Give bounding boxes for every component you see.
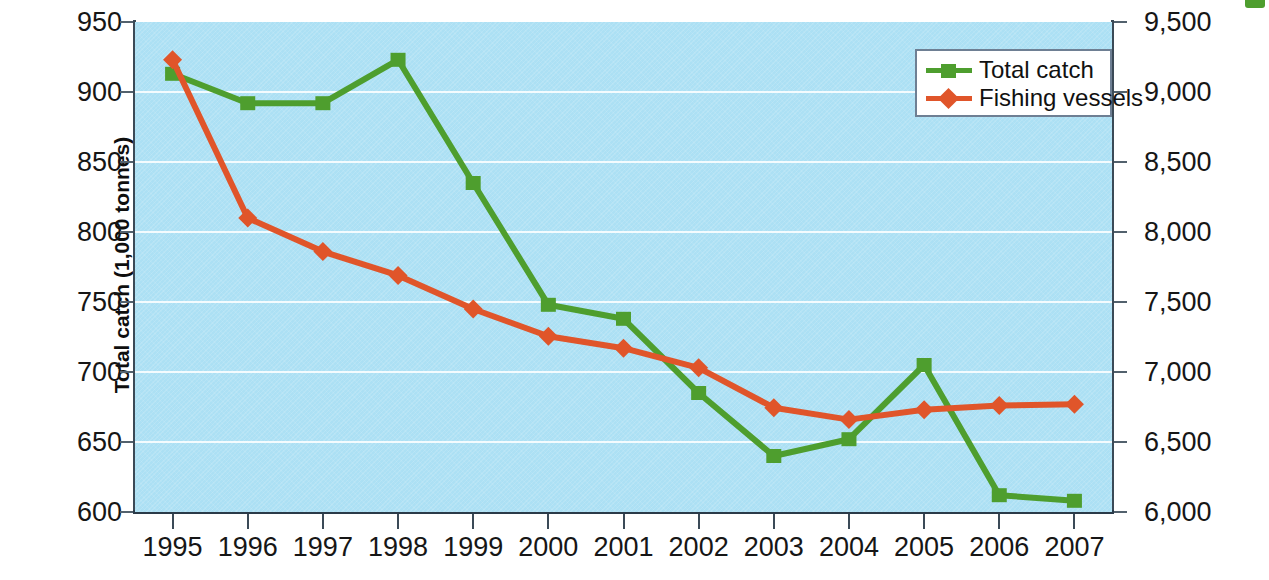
data-point-square bbox=[766, 449, 781, 463]
diamond-marker-icon bbox=[938, 88, 959, 109]
legend-label-fishing-vessels: Fishing vessels bbox=[979, 86, 1143, 110]
y-axis-right-tick-mark bbox=[1113, 301, 1127, 303]
y-axis-left-tick-mark bbox=[120, 161, 134, 163]
x-axis-tick-label: 2001 bbox=[593, 534, 653, 561]
y-axis-left-tick-label: 650 bbox=[77, 429, 122, 456]
y-axis-right-tick-mark bbox=[1113, 231, 1127, 233]
data-point-diamond bbox=[539, 327, 558, 346]
chart-legend: Total catch Fishing vessels bbox=[915, 49, 1112, 117]
x-axis-tick-mark bbox=[923, 514, 925, 529]
series-line-total-catch bbox=[173, 60, 1075, 501]
x-axis-tick-mark bbox=[397, 514, 399, 529]
data-point-square bbox=[240, 96, 255, 110]
y-axis-right-tick-label: 6,000 bbox=[1144, 499, 1212, 526]
data-point-diamond bbox=[163, 50, 182, 69]
x-axis-tick-mark bbox=[623, 514, 625, 529]
x-axis-tick-label: 2003 bbox=[744, 534, 804, 561]
y-axis-right-tick-label: 8,000 bbox=[1144, 219, 1212, 246]
data-point-diamond bbox=[464, 300, 483, 319]
data-point-diamond bbox=[915, 400, 934, 419]
y-axis-left-tick-label: 800 bbox=[77, 219, 122, 246]
x-axis-tick-mark bbox=[698, 514, 700, 529]
y-axis-right-tick-mark bbox=[1113, 371, 1127, 373]
x-axis-tick-mark bbox=[1073, 514, 1075, 529]
y-axis-left-tick-label: 850 bbox=[77, 149, 122, 176]
data-point-square bbox=[917, 358, 932, 372]
y-axis-right-tick-label: 9,500 bbox=[1144, 9, 1212, 36]
data-point-diamond bbox=[238, 209, 257, 228]
y-axis-left-tick-mark bbox=[120, 441, 134, 443]
data-point-diamond bbox=[839, 410, 858, 429]
x-axis-tick-mark bbox=[322, 514, 324, 529]
x-axis-tick-mark bbox=[848, 514, 850, 529]
y-axis-left-title-container: Total catch (1,000 tonnes) bbox=[0, 0, 34, 530]
x-axis-tick-label: 1997 bbox=[293, 534, 353, 561]
x-axis-tick-label: 1996 bbox=[218, 534, 278, 561]
x-axis-tick-mark bbox=[998, 514, 1000, 529]
data-point-square bbox=[841, 432, 856, 446]
legend-label-total-catch: Total catch bbox=[979, 58, 1094, 82]
data-point-diamond bbox=[313, 242, 332, 261]
x-axis-tick-label: 2004 bbox=[819, 534, 879, 561]
x-axis-tick-label: 2000 bbox=[518, 534, 578, 561]
y-axis-right-tick-mark bbox=[1113, 441, 1127, 443]
legend-swatch-total-catch bbox=[926, 59, 972, 81]
y-axis-right-tick-label: 7,000 bbox=[1144, 359, 1212, 386]
x-axis-tick-label: 2007 bbox=[1044, 534, 1104, 561]
y-axis-left-tick-mark bbox=[120, 371, 134, 373]
y-axis-left-tick-mark bbox=[120, 301, 134, 303]
x-axis-tick-label: 2005 bbox=[894, 534, 954, 561]
y-axis-left-tick-label: 600 bbox=[77, 499, 122, 526]
data-point-diamond bbox=[990, 396, 1009, 415]
decorative-green-fragment bbox=[1245, 0, 1265, 8]
data-point-square bbox=[466, 176, 481, 190]
y-axis-left-tick-label: 700 bbox=[77, 359, 122, 386]
square-marker-icon bbox=[941, 64, 956, 78]
legend-item-total-catch[interactable]: Total catch bbox=[926, 56, 1100, 84]
y-axis-right-tick-mark bbox=[1113, 161, 1127, 163]
x-axis-tick-mark bbox=[773, 514, 775, 529]
y-axis-right-tick-mark bbox=[1113, 21, 1127, 23]
x-axis-tick-mark bbox=[547, 514, 549, 529]
data-point-square bbox=[315, 96, 330, 110]
y-axis-right-tick-mark bbox=[1113, 511, 1127, 513]
x-axis-tick-label: 1999 bbox=[443, 534, 503, 561]
y-axis-right-tick-label: 6,500 bbox=[1144, 429, 1212, 456]
data-point-diamond bbox=[1065, 395, 1084, 414]
x-axis-tick-label: 1995 bbox=[143, 534, 203, 561]
data-point-diamond bbox=[389, 266, 408, 285]
y-axis-left-tick-label: 950 bbox=[77, 9, 122, 36]
data-point-square bbox=[992, 488, 1007, 502]
y-axis-right-tick-label: 7,500 bbox=[1144, 289, 1212, 316]
y-axis-right-tick-label: 8,500 bbox=[1144, 149, 1212, 176]
x-axis-tick-label: 2002 bbox=[669, 534, 729, 561]
legend-item-fishing-vessels[interactable]: Fishing vessels bbox=[926, 84, 1100, 112]
y-axis-right-tick-label: 9,000 bbox=[1144, 79, 1212, 106]
x-axis-tick-label: 2006 bbox=[969, 534, 1029, 561]
data-point-square bbox=[541, 298, 556, 312]
data-point-square bbox=[616, 312, 631, 326]
data-point-square bbox=[691, 386, 706, 400]
x-axis-tick-label: 1998 bbox=[368, 534, 428, 561]
x-axis-tick-mark bbox=[172, 514, 174, 529]
x-axis-tick-mark bbox=[472, 514, 474, 529]
y-axis-left-tick-label: 750 bbox=[77, 289, 122, 316]
y-axis-left-tick-mark bbox=[120, 231, 134, 233]
y-axis-left-tick-mark bbox=[120, 511, 134, 513]
data-point-square bbox=[391, 53, 406, 67]
legend-swatch-fishing-vessels bbox=[926, 87, 972, 109]
data-point-square bbox=[1067, 494, 1082, 508]
data-point-diamond bbox=[614, 339, 633, 358]
y-axis-left-tick-mark bbox=[120, 91, 134, 93]
y-axis-left-tick-mark bbox=[120, 21, 134, 23]
chart-figure: Total catch (1,000 tonnes) Number of fis… bbox=[0, 0, 1269, 580]
y-axis-left-tick-label: 900 bbox=[77, 79, 122, 106]
y-axis-right-title-container: Number of fishing vessels bbox=[1232, 0, 1269, 530]
x-axis-tick-mark bbox=[247, 514, 249, 529]
